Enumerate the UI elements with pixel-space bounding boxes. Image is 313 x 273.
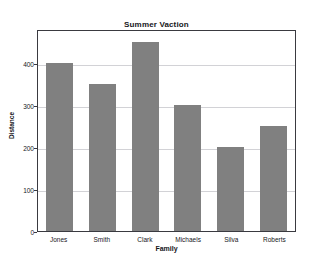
bar-chart-figure: Summer Vaction Distance 0100200300400 Jo… xyxy=(0,9,313,273)
x-axis-tick-label: Silva xyxy=(210,233,253,245)
bar-slot xyxy=(166,31,209,231)
bar-slot xyxy=(124,31,167,231)
x-axis-tick-label: Roberts xyxy=(253,233,296,245)
bar-jones[interactable] xyxy=(46,63,73,231)
bar-roberts[interactable] xyxy=(260,126,287,231)
bar-silva[interactable] xyxy=(217,147,244,231)
y-axis-tick-label: 400 xyxy=(8,60,34,67)
y-axis-tick-label: 300 xyxy=(8,102,34,109)
chart-title: Summer Vaction xyxy=(0,20,313,29)
plot-area xyxy=(37,30,296,232)
x-axis-tick-label: Smith xyxy=(80,233,123,245)
y-axis-tick-label: 100 xyxy=(8,186,34,193)
bar-slot xyxy=(38,31,81,231)
y-axis-tick-label: 200 xyxy=(8,144,34,151)
bar-slot xyxy=(252,31,295,231)
bar-slot xyxy=(81,31,124,231)
x-axis-title: Family xyxy=(37,245,296,252)
x-axis-tick-label: Jones xyxy=(37,233,80,245)
x-axis-tick-label: Clark xyxy=(123,233,166,245)
bar-michaels[interactable] xyxy=(174,105,201,231)
clipped-header-strip: statistics is a method that can reveal xyxy=(0,0,313,9)
bar-smith[interactable] xyxy=(89,84,116,231)
clipped-header-text: statistics is a method that can reveal xyxy=(12,0,302,1)
y-axis-tick-labels: 0100200300400 xyxy=(4,30,34,232)
x-axis-tick-label: Michaels xyxy=(167,233,210,245)
bar-clark[interactable] xyxy=(132,42,159,231)
y-axis-tick-label: 0 xyxy=(8,229,34,236)
bar-series xyxy=(38,31,295,231)
bar-slot xyxy=(209,31,252,231)
x-axis-tick-labels: JonesSmithClarkMichaelsSilvaRoberts xyxy=(37,233,296,245)
